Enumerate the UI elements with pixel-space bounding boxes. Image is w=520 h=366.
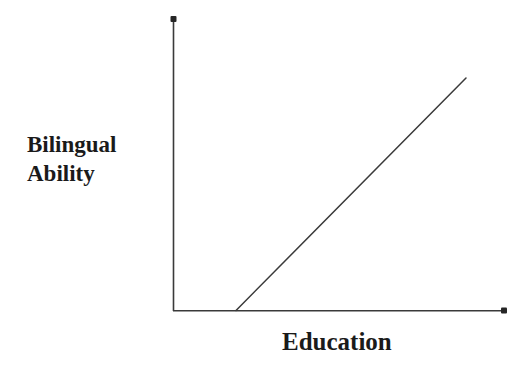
y-axis-label-line-1: Bilingual: [27, 130, 116, 159]
x-axis-arrow-icon: [501, 308, 507, 314]
y-axis-label-line-2: Ability: [27, 159, 116, 188]
chart-figure: Bilingual Ability Education: [0, 0, 520, 366]
trend-line: [236, 78, 466, 311]
y-axis-label: Bilingual Ability: [27, 130, 116, 188]
x-axis-label: Education: [282, 327, 392, 356]
y-axis-arrow-icon: [171, 16, 177, 22]
